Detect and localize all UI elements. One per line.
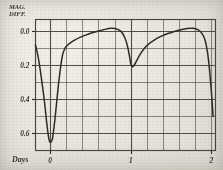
x-tick-label: 0: [48, 156, 52, 165]
y-tick-label: 0.0: [20, 27, 30, 36]
y-tick-label: 0.2: [20, 61, 30, 70]
y-axis-label-line2: DIFF.: [8, 10, 26, 17]
y-axis-tick-labels: 0.00.20.40.6: [20, 27, 30, 138]
light-curve-chart: MAG. DIFF. Days 0.00.20.40.6 012: [0, 0, 223, 170]
x-tick-label: 2: [209, 156, 214, 165]
y-tick-label: 0.4: [20, 95, 30, 104]
x-axis-label: Days: [11, 155, 28, 164]
figure-container: MAG. DIFF. Days 0.00.20.40.6 012: [0, 0, 223, 170]
light-curve-line: [36, 28, 214, 142]
y-tick-label: 0.6: [20, 129, 30, 138]
x-tick-label: 1: [129, 156, 133, 165]
x-axis-tick-labels: 012: [48, 156, 213, 165]
y-axis-label-line1: MAG.: [8, 3, 26, 10]
